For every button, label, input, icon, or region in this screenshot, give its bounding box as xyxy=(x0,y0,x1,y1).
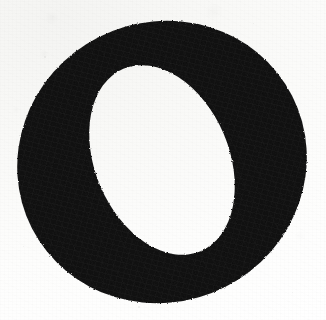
scanned-image-canvas xyxy=(0,0,326,320)
ink-surface-texture xyxy=(0,0,326,320)
glyph-stage xyxy=(0,0,326,320)
